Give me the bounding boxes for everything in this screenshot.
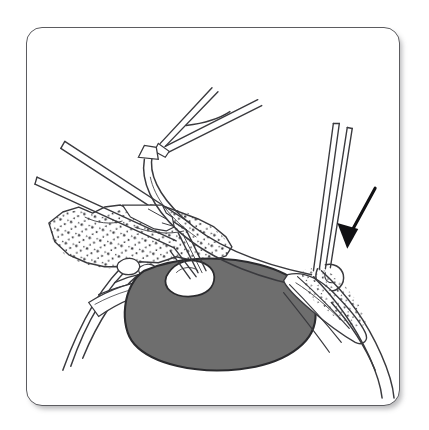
forked-structure — [154, 88, 261, 158]
right-instrument[interactable] — [313, 124, 352, 291]
figure-title: Surgical illustration: instrument-assist… — [0, 21, 1, 22]
figure-frame — [26, 27, 400, 406]
figure-root: Surgical illustration: instrument-assist… — [0, 0, 429, 430]
surgical-illustration — [27, 28, 399, 405]
pointer-arrow — [337, 188, 375, 249]
